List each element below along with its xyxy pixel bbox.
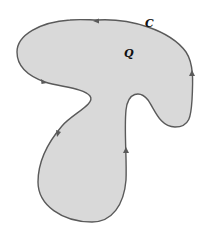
curve-label-c: C xyxy=(145,17,154,30)
region-q-with-boundary-curve-c xyxy=(17,20,193,222)
region-diagram: C Q xyxy=(0,0,204,234)
region-label-q: Q xyxy=(124,47,134,60)
